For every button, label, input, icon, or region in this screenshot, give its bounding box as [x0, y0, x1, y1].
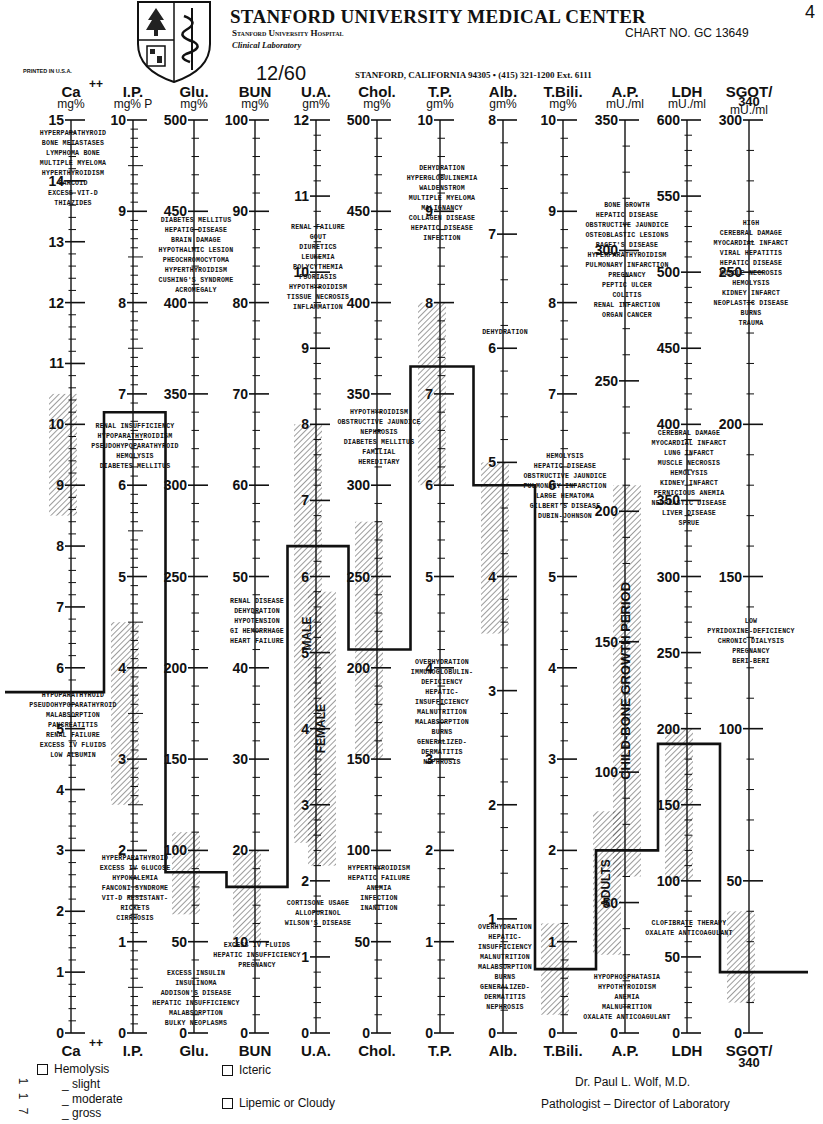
diagnosis-note: HYPOPARATHYROIDPSEUDOHYPOPARATHYROIDMALA…	[29, 692, 116, 759]
side-number: 7	[16, 1108, 30, 1115]
diagnosis-line: DIURETICS	[299, 244, 336, 251]
diagnosis-line: PULMONARY INFARCTION	[585, 262, 668, 269]
diagnosis-line: EXCESS IV FLUIDS	[40, 742, 107, 749]
diagnosis-line: NEPHROSIS	[423, 759, 460, 766]
checkbox-square-icon[interactable]	[222, 1065, 233, 1076]
tick-label: 50	[726, 873, 742, 889]
tick-label: 350	[164, 386, 188, 402]
tick-label: 500	[347, 112, 371, 128]
signature-name: Dr. Paul L. Wolf, M.D.	[575, 1075, 690, 1089]
tick-label: 3	[118, 751, 126, 767]
tick-label: 100	[657, 873, 681, 889]
tick-label: 300	[164, 477, 188, 493]
axis-tbili: 012345678910T.Bili.mg%T.Bili.	[540, 83, 582, 1059]
diagnosis-line: BULKY NEOPLASMS	[165, 1020, 227, 1027]
tick-label: 100	[595, 764, 619, 780]
tick-label: 1	[425, 934, 433, 950]
tick-label: 9	[118, 203, 126, 219]
diagnosis-note: HYPERPARATHYROIDEXCESS IV GLUCOSEHYPOKAL…	[100, 855, 171, 922]
diagnosis-line: OSTEOBLASTIC LESIONS	[585, 232, 668, 239]
tick-label: 150	[347, 751, 371, 767]
side-number: 1	[16, 1078, 30, 1085]
tick-label: 9	[548, 203, 556, 219]
tick-label: 6	[56, 660, 64, 676]
diagnosis-line: RENAL DISEASE	[230, 598, 284, 605]
icteric-label: Icteric	[239, 1063, 271, 1077]
hemolysis-checkbox[interactable]: Hemolysis	[37, 1062, 109, 1076]
tick-label: 7	[488, 226, 496, 242]
diagnosis-line: INSUFFICIENCY	[415, 699, 469, 706]
diagnosis-line: PREGNANCY	[732, 648, 769, 655]
tick-label: 0	[488, 1025, 496, 1041]
diagnosis-line: HYPOTHYROIDISM	[289, 284, 347, 291]
tick-label: 0	[56, 1025, 64, 1041]
diagnosis-line: GENERALIZED-	[417, 739, 467, 746]
axis-footer-label: I.P.	[123, 1042, 144, 1059]
tick-label: 60	[232, 477, 248, 493]
tick-label: 400	[164, 295, 188, 311]
tick-label: 7	[56, 599, 64, 615]
normal-range-band	[727, 911, 755, 1002]
icteric-checkbox[interactable]: Icteric	[222, 1063, 271, 1077]
diagnosis-line: HEPATIC INSUFFICIENCY	[152, 1000, 239, 1007]
diagnosis-line: TRAUMA	[739, 320, 764, 327]
normal-range-band	[233, 850, 261, 941]
tick-label: 8	[118, 295, 126, 311]
diagnosis-line: DIABETES MELLITUS	[344, 439, 415, 446]
axis-footer-label: Alb.	[489, 1042, 517, 1059]
diagnosis-line: WILSON'S DISEASE	[285, 920, 352, 927]
tick-label: 8	[548, 295, 556, 311]
diagnosis-line: INSULINOMA	[175, 980, 217, 987]
diagnosis-line: OBSTRUCTIVE JAUNDICE	[337, 419, 420, 426]
tick-label: 90	[232, 203, 248, 219]
checkbox-square-icon[interactable]	[222, 1098, 233, 1109]
tick-label: 300	[657, 569, 681, 585]
diagnosis-line: CORTISONE USAGE	[287, 900, 349, 907]
diagnosis-note: LOWPYRIDOXINE-DEFICIENCYCHRONIC DIALYSIS…	[707, 618, 794, 665]
diagnosis-line: MALNUTRITION	[602, 1004, 652, 1011]
diagnosis-line: RICKETS	[120, 905, 149, 912]
diagnosis-line: ANEMIA	[615, 994, 640, 1001]
diagnosis-line: MALABSORPTION	[415, 719, 469, 726]
diagnosis-line: HYPOPARATHYROIDISM	[98, 433, 173, 440]
tick-label: 8	[488, 112, 496, 128]
tick-label: 350	[347, 386, 371, 402]
tick-label: 0	[240, 1025, 248, 1041]
diagnosis-line: HEPATIC DISEASE	[165, 227, 227, 234]
diagnosis-line: HEREDITARY	[358, 459, 400, 466]
tick-label: 0	[548, 1025, 556, 1041]
lab-profile-chart: MALEFEMALEADULTSCHILD-BONE GROWTH PERIOD…	[0, 0, 823, 1124]
diagnosis-line: VIT-D RESISTANT-	[102, 895, 169, 902]
axis-unit-label: mg% P	[114, 97, 153, 111]
tick-label: 8	[56, 538, 64, 554]
diagnosis-line: CUSHING'S SYNDROME	[159, 277, 234, 284]
axis-footer-label: T.P.	[428, 1042, 452, 1059]
tick-label: 10	[110, 112, 126, 128]
diagnosis-line: MALNUTRITION	[480, 954, 530, 961]
diagnosis-line: HYPERTHYROIDISM	[165, 267, 227, 274]
axis-unit-label: mg%	[241, 97, 269, 111]
tick-label: 150	[719, 569, 743, 585]
diagnosis-line: NEOPLASTIC DISEASE	[652, 500, 727, 507]
axis-ca: 0123456789101112131415Ca++mg%Ca++	[48, 77, 103, 1059]
diagnosis-line: LYMPHOMA BONE	[46, 150, 100, 157]
lipemic-checkbox[interactable]: Lipemic or Cloudy	[222, 1096, 335, 1110]
tick-label: 11	[294, 188, 309, 204]
diagnosis-line: GENERALIZED-	[480, 984, 530, 991]
diagnosis-line: LARGE HEMATOMA	[536, 493, 594, 500]
diagnosis-line: BURNS	[432, 729, 453, 736]
diagnosis-line: IMMUNOGLOBULIN-	[411, 669, 473, 676]
diagnosis-line: FAMILIAL	[362, 449, 395, 456]
diagnosis-line: HYPERPARATHYROIDISM	[588, 252, 667, 259]
tick-label: 450	[657, 340, 681, 356]
diagnosis-line: THIAZIDES	[54, 200, 91, 207]
diagnosis-line: ALLOPURINOL	[295, 910, 341, 917]
range-label: CHILD-BONE GROWTH PERIOD	[618, 582, 633, 780]
diagnosis-line: DEFICIENCY	[421, 679, 463, 686]
diagnosis-line: RENAL INSUFFICIENCY	[96, 423, 175, 430]
axis-unit-label: gm%	[489, 97, 517, 111]
tick-label: 5	[301, 645, 309, 661]
diagnosis-note: CORTISONE USAGEALLOPURINOLWILSON'S DISEA…	[285, 900, 352, 927]
tick-label: 30	[232, 751, 248, 767]
checkbox-square-icon[interactable]	[37, 1064, 48, 1075]
